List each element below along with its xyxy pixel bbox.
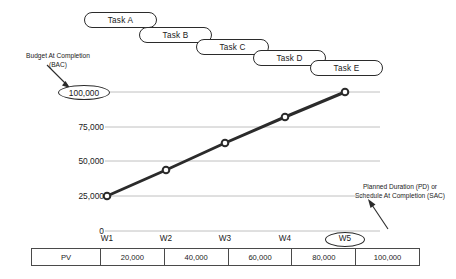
x-tick-w1-label: W1 bbox=[101, 234, 113, 243]
x-tick-w4: W4 bbox=[265, 234, 305, 243]
y-tick-100000-label: 100,000 bbox=[69, 88, 99, 98]
pv-marker-w3 bbox=[222, 140, 229, 147]
pv-marker-w2 bbox=[163, 167, 170, 174]
table-row-header-pv: PV bbox=[32, 249, 101, 266]
pv-marker-w1 bbox=[104, 193, 111, 200]
table-cell-pv-w5: 100,000 bbox=[356, 249, 420, 266]
table-cell-pv-w4: 80,000 bbox=[292, 249, 356, 266]
x-tick-w2-label: W2 bbox=[160, 234, 172, 243]
table-row-pv: PV 20,000 40,000 60,000 80,000 100,000 bbox=[32, 249, 420, 266]
y-tick-50000-label: 50,000 bbox=[78, 156, 104, 166]
x-tick-w4-label: W4 bbox=[279, 234, 291, 243]
x-tick-w5-label: W5 bbox=[339, 234, 351, 243]
pd-sac-leader-arrow bbox=[368, 199, 388, 229]
pv-marker-w5 bbox=[342, 89, 349, 96]
table-cell-pv-w3: 60,000 bbox=[228, 249, 292, 266]
y-tick-75000-label: 75,000 bbox=[78, 122, 104, 132]
x-tick-w3-label: W3 bbox=[219, 234, 231, 243]
x-tick-w3: W3 bbox=[205, 234, 245, 243]
y-tick-50000: 50,000 bbox=[60, 156, 104, 166]
table-cell-pv-w1: 20,000 bbox=[101, 249, 165, 266]
y-tick-75000: 75,000 bbox=[60, 122, 104, 132]
x-tick-w2: W2 bbox=[146, 234, 186, 243]
table-cell-pv-w2: 40,000 bbox=[164, 249, 228, 266]
y-tick-25000: 25,000 bbox=[60, 191, 104, 201]
gridlines bbox=[105, 92, 380, 231]
y-tick-25000-label: 25,000 bbox=[78, 191, 104, 201]
y-tick-100000: 100,000 bbox=[58, 85, 110, 100]
bac-leader-arrow bbox=[47, 65, 70, 88]
pv-s-curve-figure: Task A Task B Task C Task D Task E Budge… bbox=[0, 0, 456, 279]
pv-marker-w4 bbox=[282, 114, 289, 121]
x-tick-w1: W1 bbox=[87, 234, 127, 243]
x-tick-w5: W5 bbox=[325, 234, 365, 243]
pv-data-table: PV 20,000 40,000 60,000 80,000 100,000 bbox=[31, 248, 420, 266]
